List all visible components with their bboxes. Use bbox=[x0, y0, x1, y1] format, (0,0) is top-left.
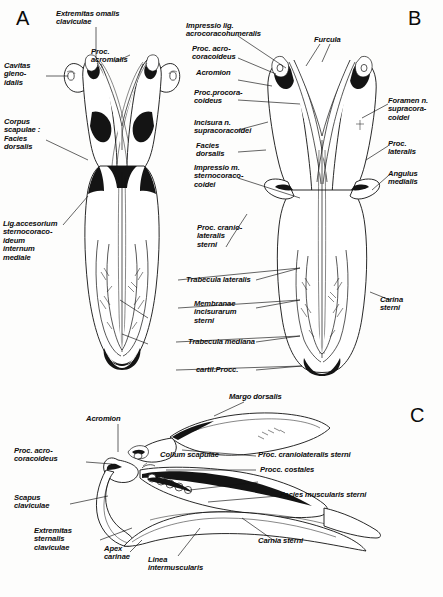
label-margo-dorsalis: Margo dorsalis bbox=[229, 393, 282, 401]
label-cartil-procc: cartil.Procc. bbox=[196, 366, 238, 374]
label-impressio-lig-acrocoracohumeralis: Impressio lig. acrocoracohumeralis bbox=[186, 22, 261, 39]
label-angulus-medialis: Angulus medialis bbox=[388, 170, 418, 187]
label-extremitas-sternalis-claviculae: Extremitas sternalis claviculae bbox=[34, 527, 72, 552]
label-scapus-claviculae: Scapus claviculae bbox=[14, 494, 49, 511]
label-proc-lateralis: Proc. lateralis bbox=[388, 140, 416, 157]
label-cavitas-glenoidalis: Cavitas gleno- idalis bbox=[4, 62, 30, 87]
label-c-proc-acrocoracoideus: Proc. acro- coracoideus bbox=[14, 447, 58, 464]
label-lig-accesorium-sternocoracoideum: Lig.accesorium sternocoraco- ideum inter… bbox=[3, 220, 57, 262]
label-membranae-incisurarum-sterni: Membranae incisurarum sterni bbox=[194, 300, 236, 325]
label-trabecula-lateralis: Trabecula lateralis bbox=[186, 276, 251, 284]
label-facies-muscularis-sterni: Facies muscularis sterni bbox=[280, 491, 366, 499]
label-linea-intermuscularis: Linea intermuscularis bbox=[148, 556, 203, 573]
label-collum-scapulae: Collum scapulae bbox=[160, 451, 219, 459]
panel-b-drawing bbox=[264, 56, 379, 376]
label-furcula: Furcula bbox=[314, 36, 341, 44]
label-impressio-m-sternocoracoidei: Impressio m. sternocoraco- coidei bbox=[194, 164, 243, 189]
label-c-proc-craniolateralis-sterni: Proc. craniolateralis sterni bbox=[258, 451, 351, 459]
panel-c-drawing bbox=[96, 413, 380, 551]
label-c-acromion: Acromion bbox=[86, 415, 121, 423]
label-extremitas-omalis-claviculae: Extremitas omalis claviculae bbox=[56, 10, 119, 27]
label-proc-acromialis: Proc. acromialis bbox=[91, 48, 128, 65]
panel-a-drawing bbox=[64, 55, 179, 370]
label-foramen-n-supracoracoidei: Foramen n. supracora- coidei bbox=[388, 97, 428, 122]
label-facies-dorsalis: Facies dorsalis bbox=[196, 142, 224, 159]
label-incisura-n-supracoracoidei: Incisura n. supracoracoidei bbox=[194, 119, 251, 136]
panel-letter-c: C bbox=[410, 404, 424, 427]
label-proc-acrocoracoideus: Proc. acro- coracoideus bbox=[192, 45, 236, 62]
label-proc-craniolateralis-sterni: Proc. cranio- lateralis sterni bbox=[197, 224, 242, 249]
label-procc-costales: Procc. costales bbox=[260, 466, 314, 474]
label-corpus-scapulae-facies-dorsalis: Corpus scapulae : Facies dorsalis bbox=[4, 118, 40, 152]
panel-letter-a: A bbox=[16, 7, 29, 30]
label-proc-procoracoideus: Proc.procora- coideus bbox=[194, 89, 243, 106]
label-carina-sterni: Carina sterni bbox=[380, 296, 403, 313]
label-apex-carinae: Apex carinae bbox=[104, 545, 130, 562]
label-carnia-sterni: Carnia sterni bbox=[258, 537, 303, 545]
label-acromion: Acromion bbox=[196, 69, 231, 77]
panel-letter-b: B bbox=[408, 7, 421, 30]
label-trabecula-mediana: Trabecula mediana bbox=[188, 338, 255, 346]
